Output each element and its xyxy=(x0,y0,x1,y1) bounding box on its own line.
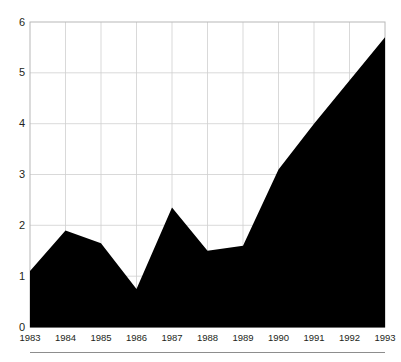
x-tick-1987: 1987 xyxy=(152,333,192,343)
y-axis-tick-labels: 6 5 4 3 2 1 0 xyxy=(0,0,25,340)
x-axis-tick-labels: 1983 1984 1985 1986 1987 1988 1989 1990 … xyxy=(0,333,401,347)
chart-plot-svg xyxy=(0,0,401,362)
y-tick-4: 4 xyxy=(3,118,25,129)
y-tick-0: 0 xyxy=(3,322,25,333)
x-tick-1992: 1992 xyxy=(330,333,370,343)
y-tick-1: 1 xyxy=(3,271,25,282)
x-tick-1985: 1985 xyxy=(81,333,121,343)
x-tick-1993: 1993 xyxy=(365,333,401,343)
x-tick-1991: 1991 xyxy=(294,333,334,343)
x-tick-1990: 1990 xyxy=(259,333,299,343)
x-tick-1983: 1983 xyxy=(10,333,50,343)
clipped-footer-text-band xyxy=(0,354,401,362)
y-tick-3: 3 xyxy=(3,169,25,180)
x-tick-1984: 1984 xyxy=(46,333,86,343)
y-tick-2: 2 xyxy=(3,220,25,231)
y-tick-5: 5 xyxy=(3,67,25,78)
y-tick-6: 6 xyxy=(3,17,25,28)
area-chart-figure: 6 5 4 3 2 1 0 1983 1984 1985 1986 1987 1… xyxy=(0,0,401,362)
footer-divider xyxy=(30,352,385,353)
x-tick-1988: 1988 xyxy=(188,333,228,343)
x-tick-1986: 1986 xyxy=(117,333,157,343)
x-tick-1989: 1989 xyxy=(223,333,263,343)
